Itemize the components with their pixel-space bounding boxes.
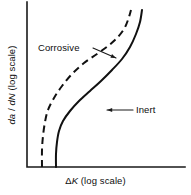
curve-inert [56, 10, 142, 167]
y-axis-scale-note: (log scale) [6, 45, 17, 93]
x-axis-title: ΔK (log scale) [0, 176, 191, 186]
y-axis-title-rotator: da / dN (log scale) [7, 10, 21, 160]
leader-inert [107, 108, 133, 112]
axis-frame [27, 2, 185, 167]
y-axis-numerator: da [6, 114, 17, 125]
series-label-inert: Inert [136, 105, 156, 115]
y-axis-denominator: dN [6, 93, 17, 105]
y-axis-divider: / [6, 106, 17, 114]
y-axis-title: da / dN (log scale) [7, 10, 17, 160]
curve-corrosive [42, 10, 131, 167]
fatigue-crack-growth-figure: Corrosive Inert ΔK (log scale) da / dN (… [0, 0, 191, 195]
x-axis-scale-note: (log scale) [78, 175, 126, 186]
plot-area [0, 0, 191, 195]
series-label-corrosive: Corrosive [38, 43, 80, 53]
